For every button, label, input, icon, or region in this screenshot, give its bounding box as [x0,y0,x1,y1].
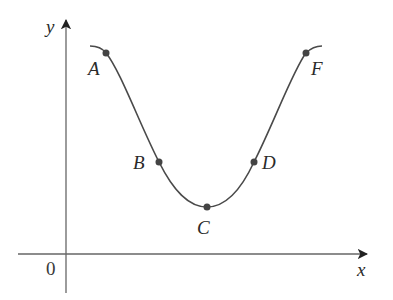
point-a-label: A [86,58,100,79]
point-f-marker [303,50,310,57]
point-b-label: B [133,152,145,173]
y-axis-label: y [44,16,55,37]
origin-label: 0 [46,258,56,279]
point-a-marker [103,50,110,57]
point-b-marker [156,159,163,166]
point-c-label: C [197,217,210,238]
point-d-marker [251,159,258,166]
x-axis-label: x [356,259,366,280]
graph-diagram: y x 0 A B C D F [0,0,393,300]
function-curve [90,46,322,207]
point-d-label: D [261,152,276,173]
point-c-marker [204,204,211,211]
point-f-label: F [310,58,323,79]
